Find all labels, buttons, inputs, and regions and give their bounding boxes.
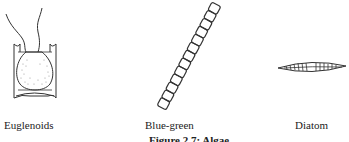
euglenoids-label: Euglenoids (4, 119, 54, 131)
blue-green-label: Blue-green (145, 119, 194, 131)
euglenoid-illustration (4, 4, 64, 104)
diatom-label: Diatom (295, 119, 328, 131)
blue-green-illustration (150, 2, 240, 117)
diatom-illustration (276, 60, 348, 76)
figure-caption: Figure 2.7: Algae (149, 134, 229, 142)
